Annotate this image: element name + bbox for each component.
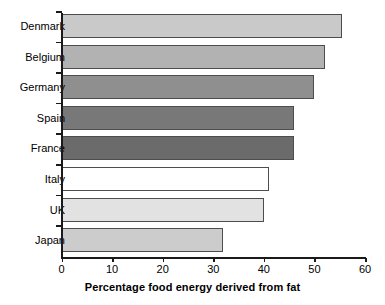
category-label-uk: UK xyxy=(50,204,65,216)
x-tick xyxy=(213,258,215,262)
x-tick-label-60: 60 xyxy=(359,263,371,275)
bar-germany xyxy=(62,75,315,99)
x-tick xyxy=(62,258,64,262)
bar-belgium xyxy=(62,45,325,69)
x-tick xyxy=(365,258,367,262)
category-label-germany: Germany xyxy=(20,81,65,93)
x-tick-label-10: 10 xyxy=(106,263,118,275)
category-label-belgium: Belgium xyxy=(25,51,65,63)
x-tick-label-20: 20 xyxy=(157,263,169,275)
x-tick xyxy=(264,258,266,262)
x-axis-title: Percentage food energy derived from fat xyxy=(0,281,385,293)
bar-chart: DenmarkBelgiumGermanySpainFranceItalyUKJ… xyxy=(0,0,385,305)
x-tick-label-30: 30 xyxy=(207,263,219,275)
x-tick-label-50: 50 xyxy=(308,263,320,275)
bar-uk xyxy=(62,198,264,222)
x-tick-label-40: 40 xyxy=(258,263,270,275)
category-label-denmark: Denmark xyxy=(20,20,65,32)
x-tick xyxy=(314,258,316,262)
bar-italy xyxy=(62,167,269,191)
bar-japan xyxy=(62,228,224,252)
y-axis-line xyxy=(61,13,63,259)
bar-spain xyxy=(62,106,295,130)
bar-france xyxy=(62,136,295,160)
x-tick-label-0: 0 xyxy=(58,263,64,275)
bar-denmark xyxy=(62,14,343,38)
x-tick xyxy=(163,258,165,262)
category-label-france: France xyxy=(31,142,65,154)
x-tick xyxy=(112,258,114,262)
